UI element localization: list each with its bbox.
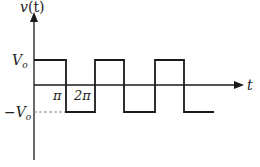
y-axis-label: v(t) bbox=[20, 0, 44, 15]
tick-label-2pi: 2π bbox=[73, 88, 91, 103]
negative-level-label: −Vo bbox=[4, 104, 32, 122]
t-axis-label: t bbox=[247, 77, 253, 93]
t-axis-arrow-icon bbox=[234, 81, 244, 89]
positive-level-label: Vo bbox=[12, 52, 28, 70]
square-wave-diagram: v(t) Vo −Vo π 2π t bbox=[0, 0, 260, 167]
tick-label-pi: π bbox=[52, 88, 62, 103]
square-waveform bbox=[34, 60, 214, 112]
